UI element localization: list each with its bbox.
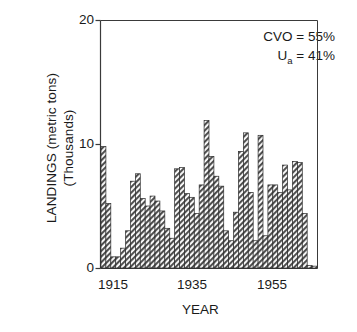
bar bbox=[263, 236, 268, 268]
bar bbox=[199, 185, 204, 268]
bar bbox=[253, 241, 258, 268]
bar bbox=[307, 266, 312, 268]
bar bbox=[283, 165, 288, 268]
bar bbox=[165, 228, 170, 268]
bar bbox=[209, 156, 214, 268]
bar bbox=[273, 185, 278, 268]
bar bbox=[219, 186, 224, 268]
bar bbox=[224, 231, 229, 268]
bar bbox=[140, 199, 145, 268]
bar bbox=[150, 196, 155, 268]
bar bbox=[297, 163, 302, 268]
bar bbox=[248, 192, 253, 268]
bar bbox=[111, 257, 116, 268]
bar bbox=[184, 194, 189, 268]
bar bbox=[155, 201, 160, 268]
bar bbox=[101, 146, 106, 268]
bar bbox=[175, 169, 180, 268]
bar bbox=[121, 248, 126, 268]
bars-group bbox=[101, 120, 317, 268]
bar bbox=[312, 266, 317, 268]
bar bbox=[214, 176, 219, 268]
bar bbox=[234, 212, 239, 268]
bar bbox=[180, 168, 185, 268]
bar bbox=[126, 231, 131, 268]
bar bbox=[160, 211, 165, 268]
bar bbox=[302, 213, 307, 268]
bar bbox=[238, 151, 243, 268]
plot-area bbox=[0, 0, 357, 332]
bar bbox=[292, 161, 297, 268]
bar bbox=[194, 213, 199, 268]
bar bbox=[229, 241, 234, 268]
bar bbox=[204, 120, 209, 268]
bar bbox=[278, 192, 283, 268]
bar bbox=[170, 238, 175, 268]
bar bbox=[116, 257, 121, 268]
bar bbox=[258, 135, 263, 268]
bar bbox=[135, 174, 140, 268]
bar bbox=[288, 190, 293, 268]
bar bbox=[145, 206, 150, 268]
bar bbox=[189, 197, 194, 268]
bar bbox=[106, 204, 111, 268]
bar bbox=[243, 133, 248, 268]
bar bbox=[268, 185, 273, 268]
y-axis-ticks bbox=[96, 21, 101, 269]
landings-bar-chart: LANDINGS (metric tons) (Thousands) 20 10… bbox=[0, 0, 357, 332]
bar bbox=[130, 181, 135, 268]
